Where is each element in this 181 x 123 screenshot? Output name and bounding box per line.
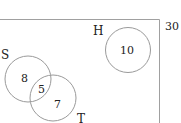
set-h-label: H	[93, 24, 103, 38]
set-t-circle	[30, 75, 76, 121]
s-t-intersection-count: 5	[38, 83, 45, 96]
h-only-count: 10	[120, 44, 134, 57]
venn-diagram: 30 S T H 8 5 7 10	[0, 0, 181, 123]
t-only-count: 7	[54, 98, 61, 111]
set-t-label: T	[77, 112, 85, 123]
universal-total-label: 30	[165, 20, 179, 33]
s-only-count: 8	[21, 72, 28, 85]
set-s-label: S	[1, 48, 9, 62]
